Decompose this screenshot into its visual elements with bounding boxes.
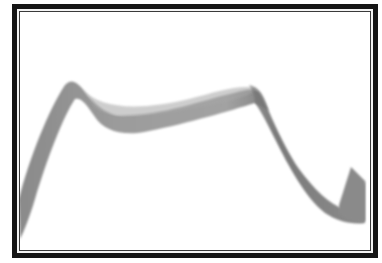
picture-frame bbox=[12, 4, 378, 258]
frame-matte bbox=[17, 9, 373, 253]
image-canvas bbox=[20, 12, 370, 250]
ribbon-end bbox=[339, 167, 365, 222]
ribbon-illustration bbox=[20, 12, 368, 248]
frame-inner-border bbox=[19, 11, 371, 251]
